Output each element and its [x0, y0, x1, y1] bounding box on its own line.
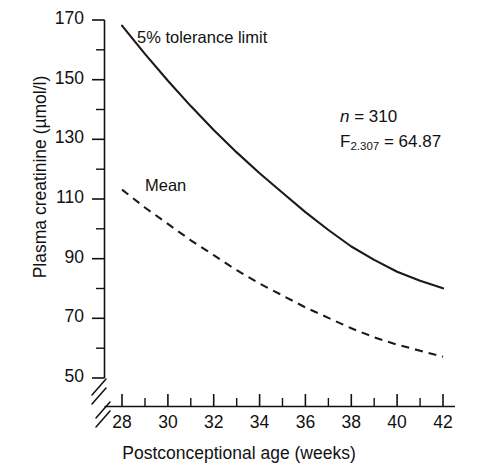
f-subscript: 2.307	[350, 140, 379, 152]
series-line-tolerance-limit	[122, 26, 443, 289]
x-tick-label-42: 42	[423, 412, 463, 433]
creatinine-chart: 170 150 130 110 90 70 50 28 30 32 34 36 …	[0, 0, 478, 469]
tolerance-limit-label: 5% tolerance limit	[137, 28, 267, 47]
f-statistic-line: F2.307 = 64.87	[340, 129, 441, 156]
sample-size-line: n = 310	[340, 104, 441, 129]
x-tick-label-28: 28	[102, 412, 142, 433]
f-symbol: F	[340, 132, 350, 151]
y-major-ticks	[92, 20, 105, 378]
f-equals: =	[379, 132, 398, 151]
statistics-annotation: n = 310 F2.307 = 64.87	[340, 104, 441, 156]
y-axis-title: Plasma creatinine (µmol/l)	[30, 76, 51, 279]
mean-label: Mean	[145, 176, 186, 195]
n-value: 310	[369, 107, 397, 126]
x-tick-label-38: 38	[331, 412, 371, 433]
n-equals: =	[349, 107, 368, 126]
f-value: 64.87	[399, 132, 442, 151]
y-axis-title-wrapper: Plasma creatinine (µmol/l)	[30, 0, 54, 357]
x-axis-title: Postconceptional age (weeks)	[0, 443, 478, 464]
x-tick-label-32: 32	[194, 412, 234, 433]
x-tick-label-40: 40	[377, 412, 417, 433]
series-line-mean	[122, 190, 443, 357]
x-minor-ticks	[145, 398, 420, 407]
y-tick-label-50: 50	[38, 366, 84, 387]
x-tick-label-30: 30	[148, 412, 188, 433]
x-tick-label-36: 36	[285, 412, 325, 433]
x-tick-label-34: 34	[240, 412, 280, 433]
